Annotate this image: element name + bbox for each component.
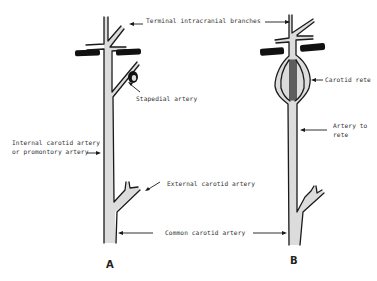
panel-b-label: B xyxy=(290,255,298,266)
annotation-carotid-rete: Carotid rete xyxy=(311,76,371,83)
panel-a-label: A xyxy=(106,259,114,270)
carotid-artery-diagram: A B Terminal intracranial branches Stape… xyxy=(0,0,377,281)
svg-text:Terminal intracranial branches: Terminal intracranial branches xyxy=(146,17,261,24)
panel-b: B xyxy=(260,15,325,266)
panel-b-bone-right xyxy=(300,43,326,52)
panel-b-bone-left xyxy=(260,47,284,56)
stapes-ring-hole xyxy=(132,75,136,81)
annotation-external-carotid: External carotid artery xyxy=(145,180,255,191)
annotation-stapedial-artery: Stapedial artery xyxy=(128,82,197,103)
svg-text:Internal carotid artery: Internal carotid artery xyxy=(12,139,100,147)
svg-text:or promontory artery: or promontory artery xyxy=(12,148,89,156)
annotation-artery-to-rete: Artery to rete xyxy=(300,122,368,138)
svg-text:Artery to: Artery to xyxy=(333,122,368,130)
svg-text:rete: rete xyxy=(333,131,348,138)
svg-text:External carotid artery: External carotid artery xyxy=(167,180,255,188)
annotation-internal-carotid: Internal carotid artery or promontory ar… xyxy=(12,139,101,156)
annotation-common-carotid: Common carotid artery xyxy=(118,229,287,237)
svg-text:Common carotid artery: Common carotid artery xyxy=(165,229,246,237)
annotation-terminal-branches: Terminal intracranial branches xyxy=(129,17,290,26)
panel-a-bone-left xyxy=(75,50,100,57)
svg-text:Stapedial artery: Stapedial artery xyxy=(136,95,197,103)
svg-text:Carotid rete: Carotid rete xyxy=(325,76,371,83)
